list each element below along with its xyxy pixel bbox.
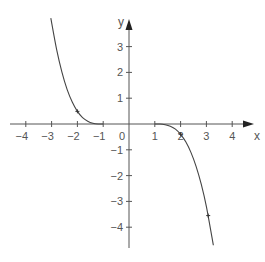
x-tick-label: −3 <box>41 130 54 142</box>
y-tick-label: −2 <box>110 170 123 182</box>
y-tick-label: −4 <box>110 221 123 233</box>
y-tick-label: 3 <box>117 41 123 53</box>
x-axis-label: x <box>254 129 260 143</box>
y-axis-arrow-icon <box>126 19 133 30</box>
x-tick-label: −2 <box>67 130 80 142</box>
x-tick-label: −4 <box>16 130 29 142</box>
x-axis-arrow-icon <box>243 121 254 128</box>
x-tick-label: −1 <box>93 130 106 142</box>
y-tick-label: 1 <box>117 92 123 104</box>
function-graph: −4−3−2−11234−4−3−2−11230xy <box>0 0 265 262</box>
y-tick-label: −3 <box>110 195 123 207</box>
x-tick-label: 3 <box>203 130 209 142</box>
curve-left-branch <box>51 18 103 124</box>
y-tick-label: −1 <box>110 144 123 156</box>
curve-right-branch <box>155 124 214 245</box>
x-tick-label: 1 <box>152 130 158 142</box>
axes: −4−3−2−11234−4−3−2−11230xy <box>10 15 260 248</box>
y-axis-label: y <box>118 15 124 29</box>
y-tick-label: 2 <box>117 66 123 78</box>
x-tick-label: 4 <box>229 130 235 142</box>
origin-label: 0 <box>119 130 125 142</box>
point-marker <box>206 214 210 218</box>
